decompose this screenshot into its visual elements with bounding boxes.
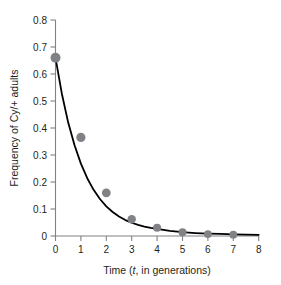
data-point [229,231,237,239]
chart-figure: 0 0.1 0.2 0.3 0.4 0.5 0.6 0.7 0.8 0 1 2 [0,0,281,285]
data-point [204,230,212,238]
x-tick-label-6: 6 [205,244,211,255]
y-tick-label-4: 0.4 [33,123,47,134]
x-tick-label-1: 1 [78,244,84,255]
x-tick-label-0: 0 [53,244,59,255]
y-tick-label-2: 0.2 [33,177,47,188]
x-axis-title: Time (t, in generations) [103,264,211,276]
data-point-group [51,53,238,239]
data-point [179,228,187,236]
y-axis-title: Frequency of Cy/+ adults [8,69,20,186]
x-axis-ticks [56,236,259,241]
exponential-decay-scatter-chart: 0 0.1 0.2 0.3 0.4 0.5 0.6 0.7 0.8 0 1 2 [0,0,281,285]
x-tick-label-2: 2 [104,244,110,255]
x-tick-label-8: 8 [256,244,262,255]
y-tick-label-0: 0 [41,231,47,242]
y-tick-label-6: 0.6 [33,69,47,80]
fitted-decay-curve [56,58,259,235]
y-tick-label-8: 0.8 [33,15,47,26]
y-tick-label-3: 0.3 [33,150,47,161]
x-tick-label-7: 7 [231,244,237,255]
data-point [153,224,161,232]
y-axis-ticks [51,20,56,236]
y-tick-label-7: 0.7 [33,42,47,53]
data-point [76,133,85,142]
x-tick-label-5: 5 [180,244,186,255]
data-point [128,215,136,223]
x-tick-label-3: 3 [129,244,135,255]
x-tick-label-4: 4 [154,244,160,255]
y-tick-label-1: 0.1 [33,204,47,215]
y-axis-tick-labels: 0 0.1 0.2 0.3 0.4 0.5 0.6 0.7 0.8 [33,15,47,242]
data-point [102,188,111,197]
y-tick-label-5: 0.5 [33,96,47,107]
data-point [51,53,61,63]
x-axis-tick-labels: 0 1 2 3 4 5 6 7 8 [53,244,262,255]
